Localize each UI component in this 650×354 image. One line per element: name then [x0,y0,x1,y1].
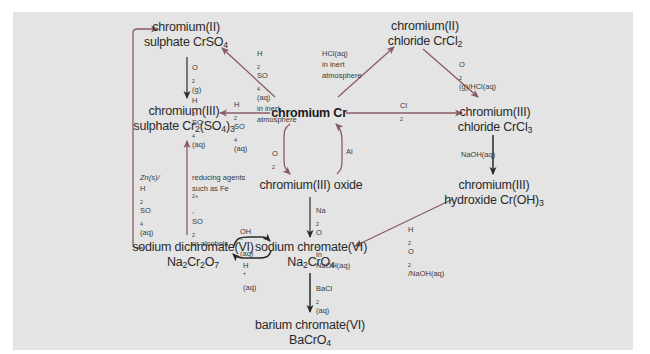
condition-cr3-chloride-to-hydroxide: NaOH(aq) [461,149,495,160]
node-chromium-iii-chloride: chromium(III) chloride CrCl3 [458,105,532,135]
condition-cr-to-cr2-chloride: HCl(aq) in inert atmosphere [322,48,362,81]
condition-chromate-to-dichromate: H+(aq) [243,260,256,293]
condition-cr-to-cr3-sulphate: H2SO4(aq) [234,99,247,154]
condition-oxide-to-cr: Al [346,146,353,157]
arrow-cr-to-oxide [284,124,290,174]
condition-cr-to-oxide: O2 [272,148,278,170]
node-sodium-chromate: sodium chromate(VI) Na2CrO4 [255,240,367,270]
condition-dichromate-to-chromate: OH−(aq) [240,226,253,259]
node-label: chromium(II) [144,20,228,35]
condition-hydroxide-to-chromate: H2O2/NaOH(aq) [408,224,444,279]
node-chromium-iii-oxide: chromium(III) oxide [259,178,362,193]
condition-oxide-to-chromate: Na2O2 in NaOH(aq) [316,205,350,271]
condition-cr-to-cr2-sulphate: H2SO4(aq) in inert atmosphere [257,48,297,125]
condition-cr-to-cr3-chloride: Cl2 [400,100,407,122]
arrow-oxide-to-cr [336,124,342,174]
node-chromium-ii-chloride: chromium(II) chloride CrCl2 [388,19,462,49]
condition-cr2-to-cr3-sulphate: O2(g) H2SO4(aq) [192,62,205,150]
node-barium-chromate: barium chromate(VI) BaCrO4 [255,318,365,348]
condition-dichromate-to-cr3-sulphate: reducing agents such as Fe2+, SO2 or alc… [192,172,245,249]
node-chromium-iii-hydroxide: chromium(III) hydroxide Cr(OH)3 [444,178,543,208]
condition-dichromate-to-cr2-sulphate: Zn(s)/ H2SO4(aq) [140,172,160,238]
node-chromium-iii-sulphate: chromium(III) sulphate Cr2(SO4)3 [133,104,234,134]
condition-cr2-to-cr3-chloride: O2(g)/HCl(aq) [459,59,496,92]
node-chromium-ii-sulphate: chromium(II) sulphate CrSO4 [144,20,228,50]
condition-chromate-to-barium-chromate: BaCl2(aq) [316,283,332,316]
